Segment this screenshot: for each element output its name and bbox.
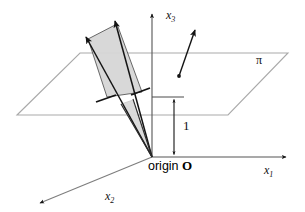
axis-label-x2: x2 — [105, 190, 114, 202]
diagram-canvas — [0, 0, 305, 212]
figure-root: x3 x1 x2 π 1 origin O — [0, 0, 305, 212]
axis-label-x1: x1 — [264, 164, 273, 176]
origin-label: origin O — [148, 159, 192, 173]
distance-label-1: 1 — [183, 119, 190, 132]
axis-x2 — [40, 157, 152, 203]
axis-label-x3: x3 — [166, 9, 175, 21]
plane-label-pi: π — [256, 54, 262, 66]
